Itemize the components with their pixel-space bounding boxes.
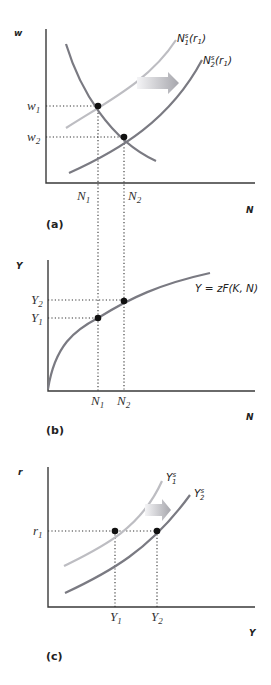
production-function-curve xyxy=(48,273,210,389)
panel-a-tag: (a) xyxy=(46,218,63,231)
n1-label-a: N1 xyxy=(76,188,90,205)
y2-label-b: Y2 xyxy=(31,292,43,309)
w2-label: w2 xyxy=(27,129,41,146)
output-supply-1-label: Ys1 xyxy=(166,471,177,486)
panel-c-tag: (c) xyxy=(46,650,63,663)
panel-c-x-axis-label: Y xyxy=(249,628,257,638)
panel-c-output-supply: r Y r1 Y1 Y2 Ys1 Ys2 (c) xyxy=(18,467,257,663)
w1-label: w1 xyxy=(27,98,40,115)
r1-label: r1 xyxy=(33,523,43,540)
y2-label-c: Y2 xyxy=(151,609,163,626)
panel-b-production-function: Y N Y2 Y1 N1 N2 Y = zF(K, N) (b) xyxy=(16,260,258,437)
labor-supply-1-label: Ns1(r1) xyxy=(177,32,206,47)
panel-a-y-axis-label: w xyxy=(14,28,23,38)
panel-a-x-axis-label: N xyxy=(246,205,254,215)
panel-b-axes xyxy=(48,260,255,391)
labor-demand-curve xyxy=(66,44,156,161)
output-supply-2-label: Ys2 xyxy=(194,487,205,502)
panel-b-y-axis-label: Y xyxy=(16,261,24,271)
diagram-canvas: w N w1 w2 N1 N2 Ns1(r1) Ns2(r1) (a) Y N xyxy=(0,0,271,685)
labor-supply-curve-2 xyxy=(69,60,202,173)
output-supply-curve-1 xyxy=(64,481,162,566)
n1-label-b: N1 xyxy=(90,393,104,410)
output-supply-curve-2 xyxy=(65,495,190,593)
panel-a-labor-market: w N w1 w2 N1 N2 Ns1(r1) Ns2(r1) (a) xyxy=(14,28,255,391)
equilibrium-point-1 xyxy=(95,103,102,110)
output-point-1 xyxy=(112,528,119,535)
y1-label-c: Y1 xyxy=(110,609,122,626)
production-point-2 xyxy=(121,298,128,305)
equilibrium-point-2 xyxy=(121,134,128,141)
panel-b-x-axis-label: N xyxy=(246,412,254,422)
production-point-1 xyxy=(95,315,102,322)
panel-c-y-axis-label: r xyxy=(18,467,23,477)
labor-supply-2-label: Ns2(r1) xyxy=(203,54,232,69)
n2-label-b: N2 xyxy=(116,393,131,410)
output-point-2 xyxy=(154,528,161,535)
n2-label-a: N2 xyxy=(127,188,142,205)
y1-label-b: Y1 xyxy=(31,310,43,327)
production-function-label: Y = zF(K, N) xyxy=(195,282,258,294)
panel-b-tag: (b) xyxy=(46,424,64,437)
